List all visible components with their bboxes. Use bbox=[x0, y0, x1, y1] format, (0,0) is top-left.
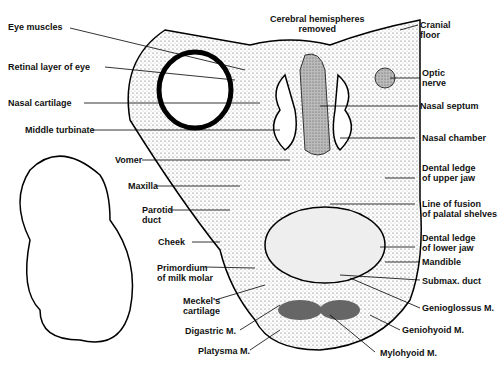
label-retinal-layer: Retinal layer of eye bbox=[8, 62, 90, 72]
embryo bbox=[20, 156, 133, 342]
label-digastric: Digastric M. bbox=[185, 326, 236, 336]
label-milk-molar: Primordiumof milk molar bbox=[157, 263, 213, 283]
label-cranial-floor: Cranialfloor bbox=[420, 20, 451, 40]
eye bbox=[159, 52, 231, 128]
title: Cerebral hemispheresremoved bbox=[270, 14, 365, 34]
label-optic-nerve: Opticnerve bbox=[422, 68, 446, 88]
label-parotid: Parotidduct bbox=[142, 205, 173, 225]
label-nasal-chamber: Nasal chamber bbox=[422, 133, 486, 143]
label-geniohyoid: Geniohyoid M. bbox=[402, 325, 464, 335]
label-genioglossus: Genioglossus M. bbox=[422, 303, 494, 313]
label-platysma: Platysma M. bbox=[198, 346, 250, 356]
label-line-fusion: Line of fusionof palatal shelves bbox=[422, 199, 497, 219]
label-mylohyoid: Mylohyoid M. bbox=[380, 348, 437, 358]
label-meckels: Meckel'scartilage bbox=[183, 296, 220, 316]
label-cheek: Cheek bbox=[158, 237, 185, 247]
label-nasal-septum: Nasal septum bbox=[420, 101, 479, 111]
anatomy-illustration bbox=[0, 0, 498, 370]
label-middle-turbinate: Middle turbinate bbox=[25, 125, 95, 135]
label-vomer: Vomer bbox=[115, 155, 142, 165]
label-mandible: Mandible bbox=[422, 257, 461, 267]
tongue bbox=[265, 207, 385, 283]
label-nasal-cartilage: Nasal cartilage bbox=[8, 98, 72, 108]
label-submax: Submax. duct bbox=[422, 276, 481, 286]
label-eye-muscles: Eye muscles bbox=[8, 22, 63, 32]
label-dental-upper: Dental ledgeof upper jaw bbox=[422, 163, 476, 183]
label-maxilla: Maxilla bbox=[128, 181, 158, 191]
label-dental-lower: Dental ledgeof lower jaw bbox=[422, 233, 476, 253]
